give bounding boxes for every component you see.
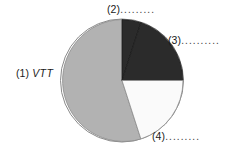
callout-4-number: (4) (152, 130, 165, 142)
callout-2-number: (2) (107, 3, 120, 15)
callout-3-blank: .......... (181, 35, 220, 46)
callout-label-1: (1) VTT (16, 68, 53, 79)
callout-2-blank: ......... (120, 4, 155, 15)
callout-1-number: (1) (16, 67, 29, 79)
callout-3-number: (3) (168, 34, 181, 46)
callout-4-blank: ......... (165, 131, 200, 142)
callout-1-answer: VTT (32, 67, 53, 79)
pie-chart-figure: (1) VTT (2)......... (3).......... (4)..… (0, 0, 229, 154)
callout-label-2: (2)......... (107, 4, 155, 15)
callout-label-4: (4)......... (152, 131, 200, 142)
callout-label-3: (3).......... (168, 35, 220, 46)
